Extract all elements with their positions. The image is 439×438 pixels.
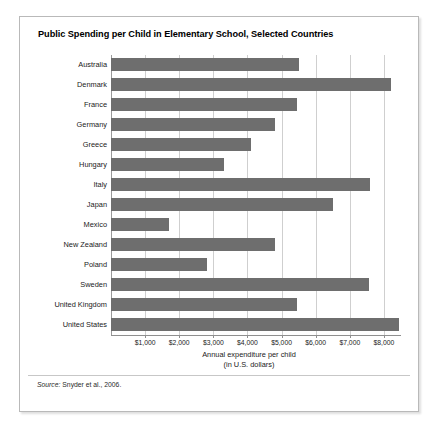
x-axis-tick (350, 335, 351, 338)
category-label: Mexico (0, 215, 107, 235)
x-axis-line (111, 335, 401, 336)
bar (111, 278, 369, 291)
category-label: Greece (0, 135, 107, 155)
footer-divider (28, 375, 410, 376)
bar (111, 318, 399, 331)
bar-row: France (111, 95, 401, 115)
x-axis-tick (145, 335, 146, 338)
bar (111, 218, 169, 231)
bar-row: Hungary (111, 155, 401, 175)
bar-row: Japan (111, 195, 401, 215)
category-label: Denmark (0, 75, 107, 95)
x-axis-label-line2: (in U.S. dollars) (80, 360, 418, 370)
bar (111, 138, 251, 151)
source-label: Source: (37, 381, 60, 388)
bar-row: Sweden (111, 275, 401, 295)
chart-title: Public Spending per Child in Elementary … (38, 29, 333, 39)
x-axis-tick (282, 335, 283, 338)
category-label: France (0, 95, 107, 115)
bar (111, 158, 224, 171)
category-label: Italy (0, 175, 107, 195)
bar-row: United States (111, 315, 401, 335)
bar-row: Germany (111, 115, 401, 135)
x-axis-tick (213, 335, 214, 338)
bar-row: Mexico (111, 215, 401, 235)
bar (111, 58, 299, 71)
x-axis-tick (179, 335, 180, 338)
x-axis-tick-label: $8,000 (354, 339, 414, 346)
bar (111, 98, 297, 111)
category-label: Poland (0, 255, 107, 275)
bar-row: Denmark (111, 75, 401, 95)
bar (111, 78, 391, 91)
source-note: Source: Snyder et al., 2006. (37, 381, 121, 388)
bar-row: New Zealand (111, 235, 401, 255)
category-label: Japan (0, 195, 107, 215)
bar-row: United Kingdom (111, 295, 401, 315)
chart-card: Public Spending per Child in Elementary … (19, 16, 419, 412)
bar (111, 298, 297, 311)
x-axis-tick (384, 335, 385, 338)
category-label: Sweden (0, 275, 107, 295)
category-label: Hungary (0, 155, 107, 175)
bar-row: Greece (111, 135, 401, 155)
bar-row: Poland (111, 255, 401, 275)
bar-row: Australia (111, 55, 401, 75)
category-label: Germany (0, 115, 107, 135)
x-axis-label: Annual expenditure per child (in U.S. do… (20, 350, 418, 370)
category-label: Australia (0, 55, 107, 75)
x-axis-tick (247, 335, 248, 338)
category-label: United Kingdom (0, 295, 107, 315)
bar (111, 118, 275, 131)
x-axis-tick (316, 335, 317, 338)
category-label: United States (0, 315, 107, 335)
x-axis-label-line1: Annual expenditure per child (80, 350, 418, 360)
category-label: New Zealand (0, 235, 107, 255)
bar-row: Italy (111, 175, 401, 195)
bar (111, 238, 275, 251)
source-text: Snyder et al., 2006. (60, 381, 121, 388)
bar (111, 198, 333, 211)
bar (111, 258, 207, 271)
plot-area: AustraliaDenmarkFranceGermanyGreeceHunga… (111, 55, 401, 335)
bar (111, 178, 370, 191)
